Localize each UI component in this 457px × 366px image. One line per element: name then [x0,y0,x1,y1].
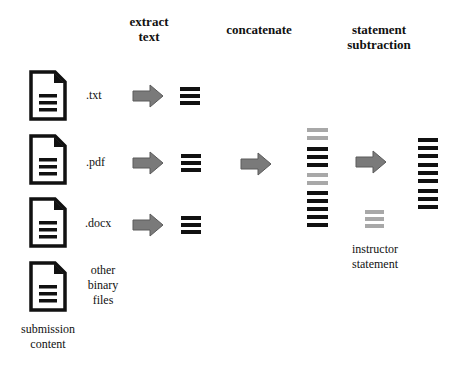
arrow-right-icon [132,84,164,108]
file-label-pdf: .pdf [86,155,105,169]
text-line-black [418,197,438,201]
heading-subtraction-line2: subtraction [339,37,419,52]
document-icon [29,261,67,312]
text-line-gray [307,136,328,140]
text-line-black [307,223,328,227]
file-label-txt: .txt [86,88,102,102]
instructor-statement-label: instructor statement [343,242,407,272]
heading-extract-line1: extract [114,14,184,29]
text-line-black [307,191,328,195]
document-icon [29,197,67,248]
text-line-black [418,163,438,167]
heading-statement-subtraction: statement subtraction [339,22,419,52]
heading-extract-line2: text [114,29,184,44]
arrow-right-icon [355,150,387,174]
text-line-black [418,171,438,175]
text-line-black [418,205,438,209]
files-line: files [84,293,122,308]
content-line: content [14,337,82,352]
text-line-black [418,154,438,158]
text-line-gray [365,217,384,221]
document-icon [29,70,67,121]
statement-line: statement [343,257,407,272]
arrow-right-icon [240,152,272,176]
heading-subtraction-line1: statement [339,22,419,37]
text-line-gray [365,224,384,228]
other-line: other [84,263,122,278]
text-line-black [307,215,328,219]
output-text-stack [418,138,438,212]
extracted-text-icon [181,154,201,172]
text-line-gray [307,128,328,132]
text-line-black [307,155,328,159]
text-line-black [418,189,438,193]
instructor-statement-stack [365,210,384,232]
arrow-right-icon [132,151,164,175]
text-line-black [307,199,328,203]
extracted-text-icon [180,87,200,105]
document-icon [29,134,67,185]
instructor-line: instructor [343,242,407,257]
extracted-text-icon [181,216,201,234]
text-line-gray [307,173,328,177]
file-label-docx: .docx [85,216,111,230]
binary-line: binary [84,278,122,293]
submission-line: submission [14,322,82,337]
text-line-black [307,163,328,167]
text-line-gray [365,210,384,214]
file-label-other-binary: other binary files [84,263,122,308]
text-line-black [418,179,438,183]
text-line-black [307,147,328,151]
text-line-black [418,146,438,150]
text-line-gray [307,181,328,185]
heading-extract-text: extract text [114,14,184,44]
submission-content-label: submission content [14,322,82,352]
text-line-black [418,138,438,142]
arrow-right-icon [132,213,164,237]
text-line-black [307,207,328,211]
heading-concatenate: concatenate [214,22,304,37]
concatenated-text-stack [307,128,328,230]
